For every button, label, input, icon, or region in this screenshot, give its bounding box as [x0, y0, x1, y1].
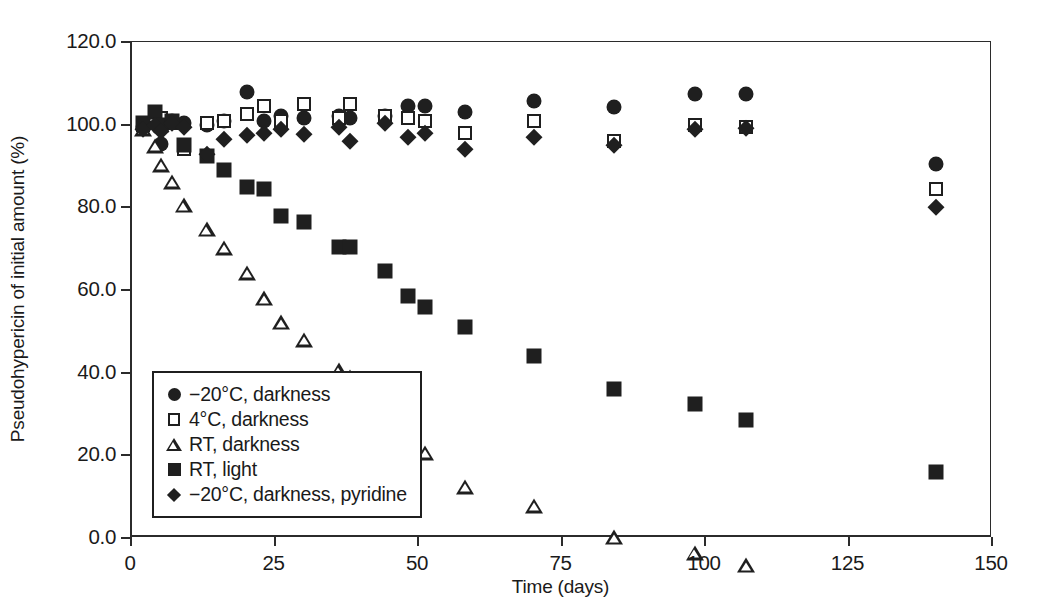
- data-point: [526, 129, 542, 145]
- data-point: [217, 114, 231, 128]
- data-point: [377, 264, 392, 279]
- data-point: [295, 332, 313, 347]
- data-point: [198, 222, 216, 237]
- data-point: [927, 199, 943, 215]
- data-point: [297, 97, 311, 111]
- data-point: [457, 105, 472, 120]
- x-axis-title: Time (days): [130, 576, 991, 598]
- data-point: [257, 99, 271, 113]
- data-point: [417, 299, 432, 314]
- y-axis-tick: [121, 124, 130, 126]
- y-axis-tick-label: 100.0: [66, 112, 116, 136]
- data-point: [239, 84, 254, 99]
- x-axis-tick-label: 125: [831, 551, 864, 575]
- data-point: [343, 97, 357, 111]
- data-point: [240, 107, 254, 121]
- legend-item-label: 4°C, darkness: [189, 408, 308, 431]
- data-point: [687, 396, 702, 411]
- legend-item-label: −20°C, darkness, pyridine: [189, 483, 407, 506]
- y-axis-tick-label: 0.0: [88, 525, 116, 549]
- y-axis-tick: [121, 454, 130, 456]
- y-axis-tick: [121, 289, 130, 291]
- legend-item: RT, darkness: [164, 432, 407, 457]
- data-point: [274, 209, 289, 224]
- x-axis-tick: [130, 537, 132, 546]
- x-axis-tick-label: 150: [974, 551, 1007, 575]
- x-axis-tick: [848, 537, 850, 546]
- data-point: [216, 131, 232, 147]
- data-point: [928, 464, 943, 479]
- y-axis-title: Pseudohypericin of initial amount (%): [4, 41, 32, 537]
- legend-item-label: RT, darkness: [189, 433, 299, 456]
- chart-legend: −20°C, darkness4°C, darknessRT, darkness…: [152, 371, 422, 518]
- y-axis-tick-label: 40.0: [77, 360, 116, 384]
- data-point: [400, 289, 415, 304]
- chart-figure: 0.020.040.060.080.0100.0120.0 Pseudohype…: [0, 0, 1042, 616]
- data-point: [238, 266, 256, 281]
- y-axis-tick: [121, 537, 130, 539]
- square-open-icon: [164, 413, 184, 426]
- data-point: [399, 129, 415, 145]
- data-point: [255, 291, 273, 306]
- data-point: [526, 349, 541, 364]
- data-point: [200, 116, 214, 130]
- data-point: [401, 111, 415, 125]
- data-point: [527, 114, 541, 128]
- x-axis-tick-label: 50: [406, 551, 428, 575]
- data-point: [929, 182, 943, 196]
- square-filled-icon: [164, 463, 184, 476]
- data-point: [272, 315, 290, 330]
- data-point: [216, 163, 231, 178]
- legend-item: 4°C, darkness: [164, 407, 407, 432]
- data-point: [257, 181, 272, 196]
- data-point: [928, 156, 943, 171]
- y-axis-tick: [121, 41, 130, 43]
- data-point: [163, 175, 181, 190]
- y-axis-tick: [121, 206, 130, 208]
- legend-item: −20°C, darkness: [164, 382, 407, 407]
- data-point: [739, 86, 754, 101]
- data-point: [296, 126, 312, 142]
- x-axis-tick-label: 0: [124, 551, 135, 575]
- x-axis-tick: [561, 537, 563, 546]
- data-point: [607, 100, 622, 115]
- x-axis-tick: [417, 537, 419, 546]
- data-point: [215, 240, 233, 255]
- data-point: [146, 138, 164, 153]
- data-point: [176, 138, 191, 153]
- legend-item: −20°C, darkness, pyridine: [164, 482, 407, 507]
- y-axis-tick-label: 60.0: [77, 277, 116, 301]
- data-point: [297, 214, 312, 229]
- x-axis-tick-label: 75: [549, 551, 571, 575]
- data-point: [256, 125, 272, 141]
- data-point: [526, 93, 541, 108]
- data-point: [342, 133, 358, 149]
- x-axis-tick-label: 100: [687, 551, 720, 575]
- circle-filled-icon: [164, 388, 184, 401]
- y-axis-tick: [121, 372, 130, 374]
- x-axis-tick-label: 25: [262, 551, 284, 575]
- legend-item: RT, light: [164, 457, 407, 482]
- data-point: [687, 86, 702, 101]
- data-point: [457, 141, 473, 157]
- data-point: [343, 240, 358, 255]
- legend-item-label: RT, light: [189, 458, 257, 481]
- data-point: [456, 479, 474, 494]
- triangle-open-icon: [164, 438, 184, 451]
- data-point: [739, 413, 754, 428]
- x-axis-tick: [991, 537, 993, 546]
- data-point: [457, 320, 472, 335]
- y-axis-tick-label: 80.0: [77, 194, 116, 218]
- y-axis-tick-label: 120.0: [66, 29, 116, 53]
- data-point: [607, 382, 622, 397]
- data-point: [239, 179, 254, 194]
- x-axis-tick: [704, 537, 706, 546]
- diamond-filled-icon: [164, 490, 184, 500]
- data-point: [239, 127, 255, 143]
- data-point: [152, 158, 170, 173]
- data-point: [525, 498, 543, 513]
- x-axis-tick: [274, 537, 276, 546]
- data-point: [417, 99, 432, 114]
- data-point: [297, 111, 312, 126]
- y-axis-tick-label: 20.0: [77, 442, 116, 466]
